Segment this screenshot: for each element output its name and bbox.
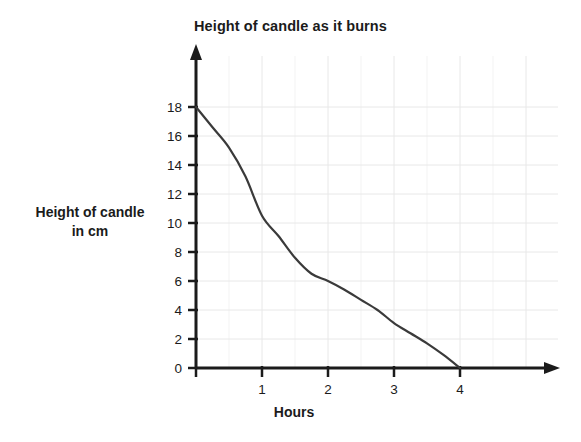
y-tick-label: 4 xyxy=(174,303,182,318)
x-tick-label: 1 xyxy=(258,382,266,397)
y-tick-label: 18 xyxy=(167,100,182,115)
y-axis-arrow xyxy=(190,44,202,60)
y-tick-label: 6 xyxy=(174,274,182,289)
grid-lines-vertical xyxy=(229,56,526,368)
y-tick-label: 0 xyxy=(174,361,182,376)
plot-area: 024681012141618 1234 xyxy=(0,0,581,442)
x-axis-tick-labels: 1234 xyxy=(258,382,464,397)
y-tick-label: 16 xyxy=(167,129,182,144)
axis-lines xyxy=(190,44,560,374)
y-tick-label: 8 xyxy=(174,245,182,260)
x-tick-label: 3 xyxy=(390,382,398,397)
y-axis-tick-labels: 024681012141618 xyxy=(167,100,183,376)
x-axis-arrow xyxy=(544,362,560,374)
grid-lines-horizontal xyxy=(196,107,558,339)
y-tick-label: 2 xyxy=(174,332,182,347)
candle-burn-chart: Height of candle as it burns Height of c… xyxy=(0,0,581,442)
y-tick-label: 12 xyxy=(167,187,182,202)
x-tick-label: 2 xyxy=(324,382,332,397)
y-tick-label: 10 xyxy=(167,216,182,231)
y-tick-label: 14 xyxy=(167,158,183,173)
x-tick-label: 4 xyxy=(456,382,464,397)
